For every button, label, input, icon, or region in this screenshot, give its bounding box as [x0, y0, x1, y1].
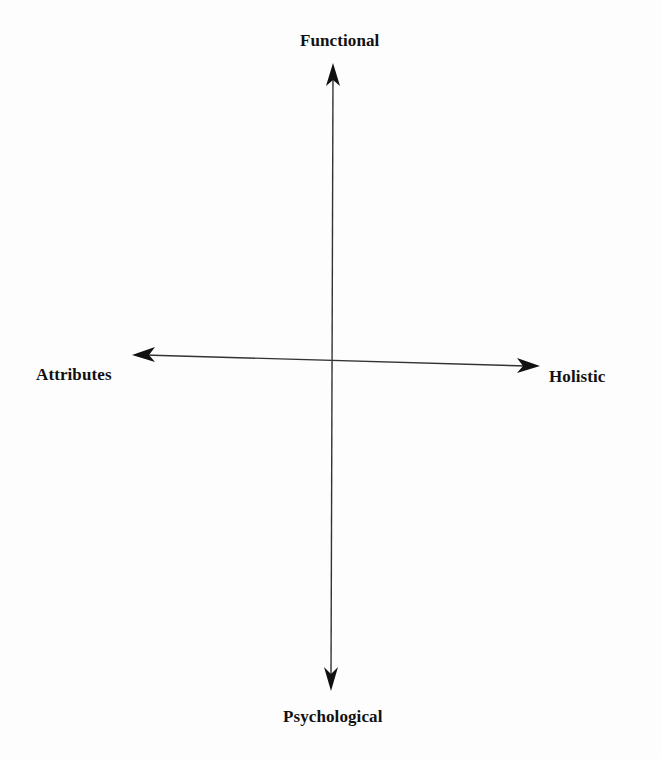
axis-label-functional: Functional: [300, 31, 379, 51]
axis-label-holistic: Holistic: [549, 367, 606, 387]
arrow-left-icon: [132, 347, 155, 362]
diagram-page: Functional Attributes Holistic Psycholog…: [0, 0, 661, 759]
vertical-axis: [324, 63, 340, 691]
axis-label-psychological: Psychological: [283, 707, 383, 727]
axis-label-attributes: Attributes: [36, 365, 112, 385]
horizontal-axis: [132, 347, 540, 373]
